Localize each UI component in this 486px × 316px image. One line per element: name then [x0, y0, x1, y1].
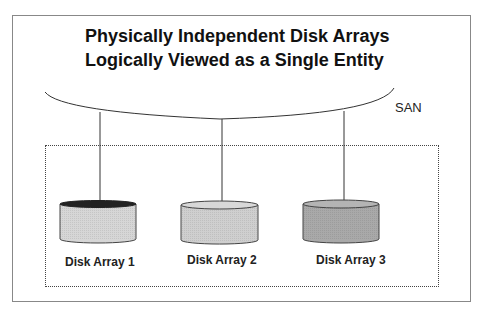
disk-array-3-icon	[303, 200, 379, 243]
disk-array-1-icon	[60, 201, 136, 243]
disk-array-2-icon	[181, 201, 258, 244]
disk-array-2-label: Disk Array 2	[187, 253, 257, 267]
san-bus-arc	[45, 88, 394, 119]
disk-array-3-label: Disk Array 3	[316, 253, 386, 267]
disk-array-1-label: Disk Array 1	[65, 255, 135, 269]
san-label: SAN	[395, 100, 422, 115]
